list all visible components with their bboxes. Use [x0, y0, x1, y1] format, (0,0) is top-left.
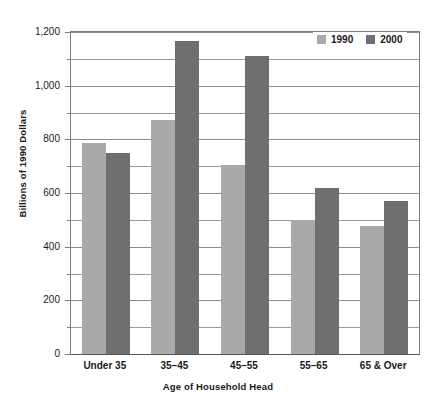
- x-tick-label: 35–45: [160, 360, 188, 371]
- bar-chart: Billions of 1990 Dollars 02004006008001,…: [0, 0, 436, 409]
- y-axis-title: Billions of 1990 Dollars: [17, 79, 28, 249]
- bar-2000[interactable]: [245, 56, 269, 354]
- bar-2000[interactable]: [106, 153, 130, 354]
- y-tick-label: 400: [0, 240, 60, 251]
- bar-group: [221, 32, 269, 354]
- y-tick-label: 0: [0, 348, 60, 359]
- bar-2000[interactable]: [175, 41, 199, 354]
- bar-2000[interactable]: [384, 201, 408, 354]
- bar-1990[interactable]: [291, 220, 315, 354]
- legend: 19902000: [313, 32, 407, 47]
- x-tick-label: 45–55: [230, 360, 258, 371]
- y-tick-label: 200: [0, 294, 60, 305]
- legend-entry-2000[interactable]: 2000: [366, 34, 402, 45]
- legend-swatch-icon: [366, 35, 375, 44]
- legend-label: 1990: [331, 34, 353, 45]
- bar-1990[interactable]: [82, 143, 106, 354]
- bar-1990[interactable]: [221, 165, 245, 354]
- x-axis-title: Age of Household Head: [0, 381, 436, 392]
- bar-group: [82, 32, 130, 354]
- legend-swatch-icon: [317, 35, 326, 44]
- bars-layer: [71, 32, 419, 354]
- bar-1990[interactable]: [360, 226, 384, 354]
- legend-label: 2000: [380, 34, 402, 45]
- y-tick-label: 600: [0, 187, 60, 198]
- y-tick-label: 800: [0, 133, 60, 144]
- y-tick-label: 1,200: [0, 26, 60, 37]
- legend-entry-1990[interactable]: 1990: [317, 34, 353, 45]
- y-tick-mark: [65, 354, 71, 355]
- x-tick-label: 55–65: [300, 360, 328, 371]
- bar-1990[interactable]: [151, 120, 175, 354]
- x-tick-label: 65 & Over: [360, 360, 407, 371]
- bar-2000[interactable]: [315, 188, 339, 354]
- bar-group: [151, 32, 199, 354]
- bar-group: [291, 32, 339, 354]
- bar-group: [360, 32, 408, 354]
- y-tick-label: 1,000: [0, 79, 60, 90]
- plot-area: [70, 31, 420, 355]
- x-tick-label: Under 35: [83, 360, 126, 371]
